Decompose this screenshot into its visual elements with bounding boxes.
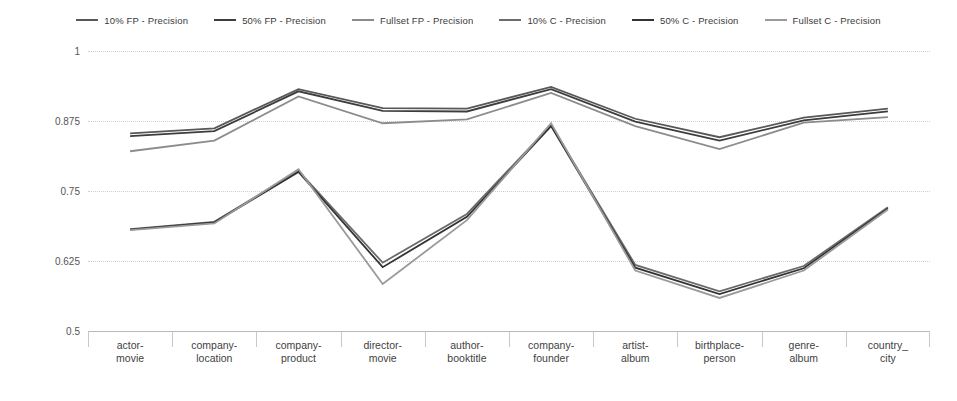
x-tick-separator xyxy=(425,331,426,347)
x-axis: actor- movie company- location company- … xyxy=(88,331,930,393)
x-tick-company-founder: company- founder xyxy=(509,331,593,393)
x-tick-label-line2: location xyxy=(196,352,232,365)
y-axis-ticks: 1 0.875 0.75 0.625 0.5 xyxy=(10,51,80,331)
x-tick-label-line1: artist- xyxy=(622,339,648,352)
y-tick-0875: 0.875 xyxy=(20,116,80,127)
x-tick-separator-end xyxy=(929,331,930,347)
y-tick-0625: 0.625 xyxy=(20,256,80,267)
x-tick-label-line2: founder xyxy=(533,352,569,365)
x-tick-label-line2: movie xyxy=(369,352,397,365)
x-tick-label-line2: product xyxy=(281,352,316,365)
series-line-2 xyxy=(130,93,888,151)
x-tick-separator xyxy=(509,331,510,347)
x-tick-label-line2: booktitle xyxy=(447,352,486,365)
x-tick-company-location: company- location xyxy=(172,331,256,393)
legend-item-fullset-fp[interactable]: Fullset FP - Precision xyxy=(352,15,473,26)
legend-swatch-fullset-fp xyxy=(352,19,374,21)
x-tick-label-line2: city xyxy=(880,352,896,365)
x-tick-separator xyxy=(256,331,257,347)
x-tick-label-line1: actor- xyxy=(117,339,144,352)
series-line-5 xyxy=(130,123,888,298)
legend-item-fullset-c[interactable]: Fullset C - Precision xyxy=(765,15,881,26)
x-tick-separator xyxy=(846,331,847,347)
precision-line-chart: 10% FP - Precision 50% FP - Precision Fu… xyxy=(0,0,957,401)
x-tick-label-line1: company- xyxy=(275,339,321,352)
x-tick-label-line2: person xyxy=(703,352,735,365)
legend-item-10-fp[interactable]: 10% FP - Precision xyxy=(76,15,188,26)
x-tick-label-line1: director- xyxy=(363,339,402,352)
legend-label-fullset-c: Fullset C - Precision xyxy=(793,15,881,26)
x-tick-separator xyxy=(172,331,173,347)
legend-label-10-c: 10% C - Precision xyxy=(527,15,606,26)
series-lines xyxy=(88,51,930,331)
x-tick-director-movie: director- movie xyxy=(341,331,425,393)
legend-label-50-fp: 50% FP - Precision xyxy=(242,15,326,26)
legend-label-fullset-fp: Fullset FP - Precision xyxy=(380,15,473,26)
x-tick-separator xyxy=(341,331,342,347)
y-tick-1: 1 xyxy=(20,46,80,57)
y-tick-05: 0.5 xyxy=(20,326,80,337)
plot-area xyxy=(88,51,930,331)
legend-swatch-50-c xyxy=(632,19,654,21)
legend-item-50-c[interactable]: 50% C - Precision xyxy=(632,15,739,26)
x-tick-label-line2: album xyxy=(789,352,818,365)
x-tick-author-booktitle: author- booktitle xyxy=(425,331,509,393)
chart-legend: 10% FP - Precision 50% FP - Precision Fu… xyxy=(0,8,957,32)
x-tick-artist-album: artist- album xyxy=(593,331,677,393)
legend-swatch-10-fp xyxy=(76,19,98,21)
x-tick-country-city: country_ city xyxy=(846,331,930,393)
x-tick-label-line1: country_ xyxy=(868,339,908,352)
legend-item-50-fp[interactable]: 50% FP - Precision xyxy=(214,15,326,26)
series-line-4 xyxy=(130,126,888,294)
x-tick-separator xyxy=(677,331,678,347)
legend-swatch-fullset-c xyxy=(765,19,787,21)
x-tick-separator xyxy=(762,331,763,347)
x-tick-actor-movie: actor- movie xyxy=(88,331,172,393)
x-tick-genre-album: genre- album xyxy=(762,331,846,393)
legend-label-50-c: 50% C - Precision xyxy=(660,15,739,26)
x-tick-label-line1: author- xyxy=(450,339,483,352)
x-tick-label-line1: company- xyxy=(528,339,574,352)
legend-swatch-10-c xyxy=(499,19,521,21)
x-tick-separator xyxy=(593,331,594,347)
x-tick-birthplace-person: birthplace- person xyxy=(677,331,761,393)
x-tick-label-line2: album xyxy=(621,352,650,365)
x-tick-separator xyxy=(88,331,89,347)
x-tick-label-line1: birthplace- xyxy=(695,339,744,352)
legend-item-10-c[interactable]: 10% C - Precision xyxy=(499,15,606,26)
series-line-0 xyxy=(130,87,888,137)
x-tick-label-line1: genre- xyxy=(789,339,819,352)
x-tick-label-line2: movie xyxy=(116,352,144,365)
series-line-3 xyxy=(130,125,888,291)
legend-label-10-fp: 10% FP - Precision xyxy=(104,15,188,26)
y-tick-075: 0.75 xyxy=(20,186,80,197)
legend-swatch-50-fp xyxy=(214,19,236,21)
x-tick-label-line1: company- xyxy=(191,339,237,352)
x-tick-company-product: company- product xyxy=(256,331,340,393)
